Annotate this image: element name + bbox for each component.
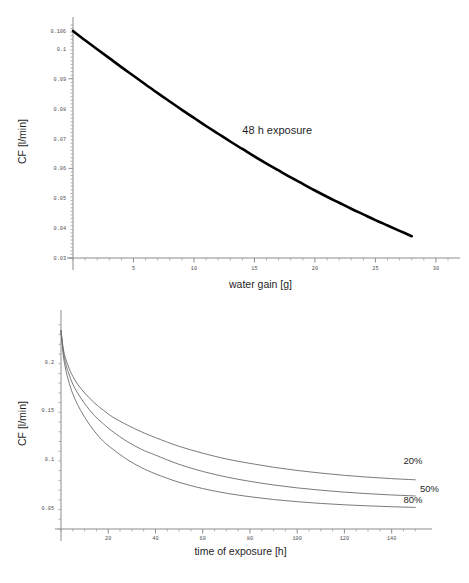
y-tick-label: 0.04 <box>54 226 66 232</box>
x-tick-label: 15 <box>251 266 257 272</box>
x-tick-label: 25 <box>372 266 378 272</box>
chart-content-bottom: 204060801001201400.050.10.150.220%50%80%… <box>16 310 440 557</box>
x-tick-label: 40 <box>152 536 158 542</box>
y-tick-label: 0.06 <box>54 166 66 172</box>
y-tick-label: 0.2 <box>45 360 54 366</box>
y-tick-label: 0.03 <box>54 256 66 262</box>
y-tick-label: 0.1 <box>45 457 54 463</box>
x-tick-label: 20 <box>312 266 318 272</box>
data-curve-20pct <box>61 331 415 480</box>
y-tick-label: 0.05 <box>54 196 66 202</box>
y-tick-label: 0.106 <box>50 29 66 35</box>
series-label-80pct: 80% <box>403 494 423 505</box>
x-axis-title: water gain [g] <box>228 278 292 290</box>
x-tick-label: 60 <box>200 536 206 542</box>
data-curve-50pct <box>61 331 415 496</box>
x-tick-label: 80 <box>247 536 253 542</box>
x-tick-label: 5 <box>132 266 135 272</box>
x-axis-title: time of exposure [h] <box>194 545 286 557</box>
x-tick-label: 20 <box>105 536 111 542</box>
x-tick-label: 120 <box>340 536 349 542</box>
x-tick-label: 30 <box>433 266 439 272</box>
y-tick-label: 0.08 <box>54 107 66 113</box>
y-tick-label: 0.07 <box>54 137 66 143</box>
data-curve-80pct <box>61 331 415 508</box>
chart-panel-top: 510152025300.030.040.050.060.070.080.090… <box>0 0 469 300</box>
x-tick-label: 10 <box>191 266 197 272</box>
x-tick-label: 140 <box>387 536 396 542</box>
chart-content-top: 510152025300.030.040.050.060.070.080.090… <box>16 17 460 290</box>
series-label-50pct: 50% <box>420 483 440 494</box>
y-tick-label: 0.05 <box>42 506 54 512</box>
y-tick-label: 0.15 <box>42 408 54 414</box>
x-tick-label: 100 <box>293 536 302 542</box>
chart-panel-bottom: 204060801001201400.050.10.150.220%50%80%… <box>0 300 469 583</box>
chart-annotation: 48 h exposure <box>242 124 312 136</box>
series-label-20pct: 20% <box>403 455 423 466</box>
chart-svg-top: 510152025300.030.040.050.060.070.080.090… <box>0 0 469 300</box>
y-tick-label: 0.1 <box>57 47 66 53</box>
chart-svg-bottom: 204060801001201400.050.10.150.220%50%80%… <box>0 300 469 583</box>
y-axis-title: CF [l/min] <box>16 401 28 446</box>
y-axis-title: CF [l/min] <box>16 119 28 164</box>
y-tick-label: 0.09 <box>54 77 66 83</box>
